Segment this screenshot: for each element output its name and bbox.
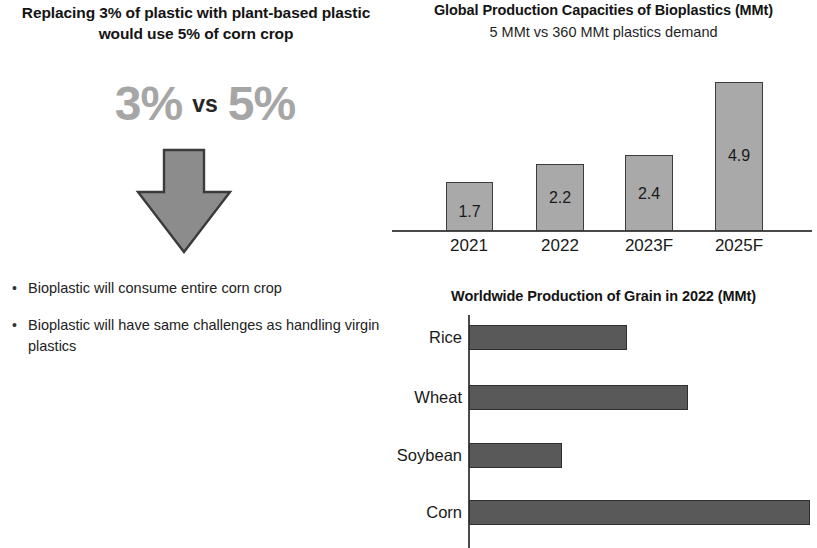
- bar-category-2022: 2022: [520, 236, 600, 256]
- list-item-text: Bioplastic will consume entire corn crop: [28, 280, 282, 296]
- grain-bar-chart: Rice Wheat Soybean Corn: [390, 312, 817, 548]
- bar-category-2023F: 2023F: [609, 236, 689, 256]
- bar-value-2022: 2.2: [536, 189, 584, 207]
- bullet-list: • Bioplastic will consume entire corn cr…: [6, 278, 386, 373]
- bar-label-wheat: Wheat: [390, 388, 462, 407]
- left-panel-title: Replacing 3% of plastic with plant-based…: [8, 2, 384, 44]
- versus-label: vs: [192, 84, 218, 130]
- bullet-marker-icon: •: [12, 315, 17, 336]
- bar-category-2025F: 2025F: [699, 236, 779, 256]
- bar-value-2025F: 4.9: [715, 147, 763, 165]
- bar-category-2021: 2021: [429, 236, 509, 256]
- bar-rice: [469, 325, 627, 350]
- bar-soybean: [469, 443, 562, 468]
- bar-label-soybean: Soybean: [390, 446, 462, 465]
- left-panel: Replacing 3% of plastic with plant-based…: [0, 0, 390, 548]
- slide-canvas: Replacing 3% of plastic with plant-based…: [0, 0, 817, 548]
- bioplastics-chart-subtitle: 5 MMt vs 360 MMt plastics demand: [390, 24, 817, 40]
- down-arrow-icon: [118, 148, 263, 258]
- plastic-share-value: 3%: [115, 78, 182, 130]
- list-item-text: Bioplastic will have same challenges as …: [28, 317, 379, 354]
- bar-wheat: [469, 385, 688, 410]
- list-item: • Bioplastic will consume entire corn cr…: [6, 278, 386, 299]
- bullet-marker-icon: •: [12, 278, 17, 299]
- bar-value-2023F: 2.4: [625, 185, 673, 203]
- corn-crop-share-value: 5%: [228, 78, 295, 130]
- list-item: • Bioplastic will have same challenges a…: [6, 315, 386, 357]
- grain-chart-title: Worldwide Production of Grain in 2022 (M…: [390, 288, 817, 304]
- bar-corn: [469, 500, 810, 525]
- bar-value-2021: 1.7: [446, 203, 493, 221]
- bar-label-corn: Corn: [390, 503, 462, 522]
- right-panel: Global Production Capacities of Bioplast…: [390, 0, 817, 548]
- bioplastics-bar-chart: 1.7 2021 2.2 2022 2.4 2023F 4.9 2025F: [390, 48, 817, 263]
- bar-label-rice: Rice: [390, 328, 462, 347]
- bioplastics-chart-title: Global Production Capacities of Bioplast…: [390, 2, 817, 18]
- percentage-comparison: 3% vs 5%: [55, 68, 355, 130]
